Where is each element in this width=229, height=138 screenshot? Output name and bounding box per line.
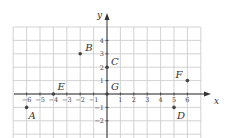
x-tick-label: 5 — [172, 96, 176, 104]
x-tick-label: −3 — [62, 96, 72, 104]
x-tick-label: 1 — [118, 96, 122, 104]
x-tick-label: −1 — [89, 96, 99, 104]
point-label-e: E — [56, 81, 65, 92]
x-tick-label: −6 — [22, 96, 32, 104]
point-a — [25, 106, 29, 110]
x-tick-label: 2 — [132, 96, 136, 104]
x-tick-label: −5 — [35, 96, 45, 104]
point-f — [186, 79, 190, 83]
point-d — [172, 106, 176, 110]
point-b — [78, 52, 82, 56]
point-c — [105, 65, 109, 69]
tick-labels: −6−5−4−3−2−11234564321−1−2 — [22, 37, 190, 125]
point-label-b: B — [84, 42, 92, 53]
x-tick-label: 3 — [145, 96, 149, 104]
point-label-a: A — [28, 110, 36, 121]
y-tick-label: 4 — [100, 37, 104, 45]
x-axis-arrow-icon — [204, 92, 211, 97]
point-g — [105, 92, 109, 96]
point-label-f: F — [174, 69, 183, 80]
x-axis-label: x — [214, 96, 219, 106]
x-tick-label: 4 — [159, 96, 163, 104]
y-tick-label: 2 — [100, 64, 104, 72]
x-tick-label: −2 — [75, 96, 85, 104]
point-e — [52, 92, 56, 96]
x-tick-label: −4 — [49, 96, 59, 104]
y-tick-label: −2 — [94, 117, 104, 125]
point-label-g: G — [111, 81, 119, 92]
y-axis-label: y — [96, 10, 103, 20]
x-tick-label: 6 — [185, 96, 189, 104]
point-label-d: D — [176, 110, 185, 121]
point-label-c: C — [111, 56, 119, 67]
coordinate-plane: x y −6−5−4−3−2−11234564321−1−2 ABCDEFG — [0, 0, 229, 138]
y-tick-label: −1 — [94, 104, 104, 112]
y-tick-label: 1 — [100, 77, 104, 85]
y-axis-arrow-icon — [105, 13, 110, 20]
y-tick-label: 3 — [100, 50, 104, 58]
